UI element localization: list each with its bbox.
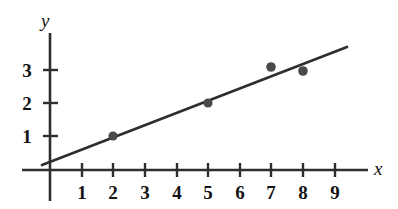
plot-canvas	[0, 0, 398, 209]
x-tick-label-7: 7	[261, 183, 281, 202]
x-tick-label-9: 9	[325, 183, 345, 202]
x-tick-label-5: 5	[198, 183, 218, 202]
data-point	[108, 131, 117, 140]
data-point	[298, 66, 308, 76]
regression-line	[42, 47, 347, 165]
x-tick-label-3: 3	[135, 183, 155, 202]
data-point	[266, 62, 276, 72]
y-tick-label-3: 3	[18, 61, 36, 80]
x-tick-label-4: 4	[167, 183, 187, 202]
scatter-plot-figure: 1 2 3 4 5 6 7 8 9 1 2 3 y x	[0, 0, 398, 209]
x-axis-label: x	[374, 159, 382, 178]
y-tick-label-1: 1	[18, 127, 36, 146]
y-tick-label-2: 2	[18, 94, 36, 113]
data-point	[203, 98, 212, 107]
x-tick-label-2: 2	[103, 183, 123, 202]
x-tick-label-6: 6	[230, 183, 250, 202]
y-axis-label: y	[41, 11, 49, 30]
x-tick-label-1: 1	[72, 183, 92, 202]
x-tick-label-8: 8	[293, 183, 313, 202]
